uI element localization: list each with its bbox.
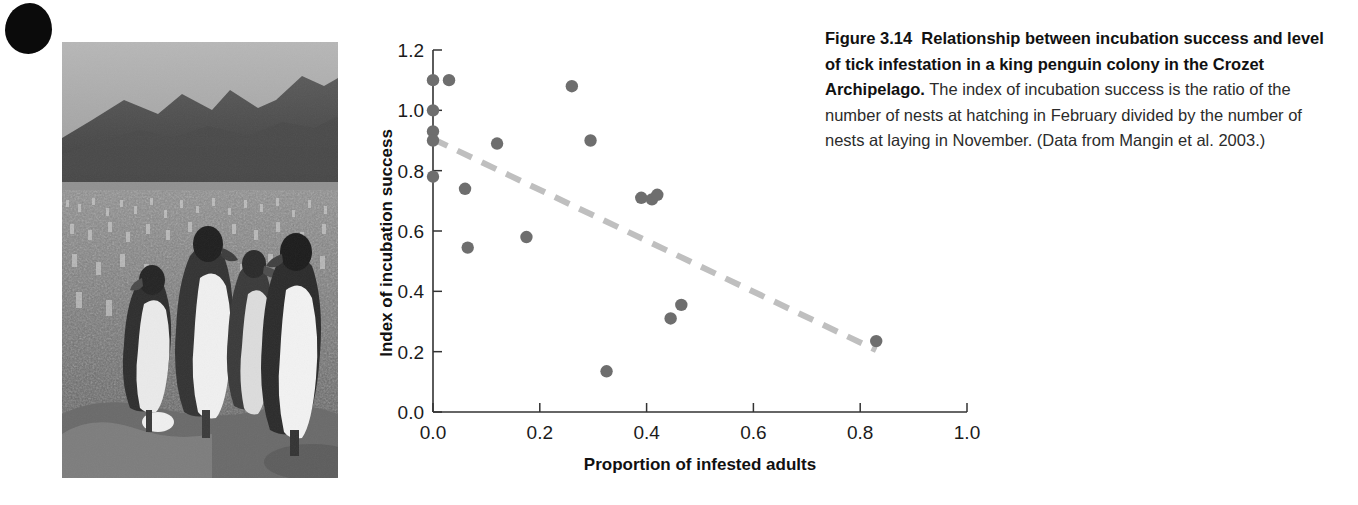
- data-point: [651, 189, 663, 201]
- svg-text:0.0: 0.0: [420, 422, 446, 443]
- svg-text:1.2: 1.2: [398, 40, 424, 61]
- data-point: [664, 312, 676, 324]
- svg-text:0.2: 0.2: [398, 342, 424, 363]
- svg-text:0.8: 0.8: [398, 161, 424, 182]
- svg-text:0.6: 0.6: [398, 221, 424, 242]
- data-point: [584, 134, 596, 146]
- svg-text:0.4: 0.4: [633, 422, 660, 443]
- chart-trendline: [433, 139, 876, 350]
- figure-caption: Figure 3.14 Relationship between incubat…: [825, 26, 1325, 154]
- svg-text:0.8: 0.8: [847, 422, 873, 443]
- x-axis-label: Proportion of infested adults: [584, 455, 816, 474]
- svg-text:0.6: 0.6: [740, 422, 766, 443]
- figure-number: Figure 3.14: [825, 29, 912, 47]
- y-axis-label: Index of incubation success: [377, 129, 396, 357]
- data-point: [443, 74, 455, 86]
- svg-text:0.2: 0.2: [527, 422, 553, 443]
- data-point: [427, 104, 439, 116]
- data-point: [462, 241, 474, 253]
- data-point: [870, 335, 882, 347]
- data-point: [600, 365, 612, 377]
- data-point: [675, 299, 687, 311]
- svg-text:1.0: 1.0: [398, 100, 424, 121]
- data-point: [566, 80, 578, 92]
- svg-text:0.4: 0.4: [398, 281, 425, 302]
- data-point: [491, 137, 503, 149]
- data-point: [520, 231, 532, 243]
- data-point: [459, 183, 471, 195]
- svg-text:1.0: 1.0: [954, 422, 980, 443]
- data-point: [427, 171, 439, 183]
- data-point: [635, 192, 647, 204]
- svg-text:0.0: 0.0: [398, 402, 424, 423]
- penguin-colony-photo: [62, 42, 338, 478]
- data-point: [427, 74, 439, 86]
- chart-data-points: [427, 74, 883, 378]
- data-point: [427, 134, 439, 146]
- ink-blot-mark: [6, 3, 52, 53]
